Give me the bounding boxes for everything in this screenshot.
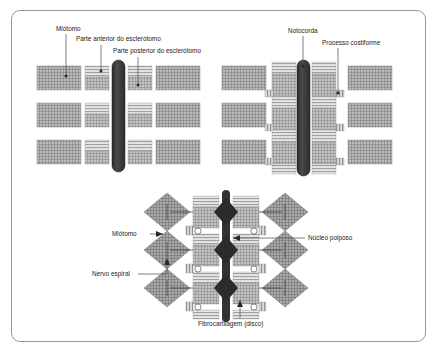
label-parte-posterior-esclerotomo: Parte posterior do esclerótomo xyxy=(113,47,201,55)
vertebral-bodies-right xyxy=(233,196,259,319)
sclerotome-blocks-left-inner xyxy=(85,66,109,164)
vertebra-column-left xyxy=(272,62,296,174)
vertebral-bodies-left xyxy=(193,196,219,319)
myotome-blocks-left-far xyxy=(156,66,200,164)
label-miotomo-bottom: Miótomo xyxy=(112,230,137,238)
figure-illustration xyxy=(0,0,437,355)
label-fibrocartilagem-disco: Fibrocartilagem (disco) xyxy=(198,320,263,328)
myotome-blocks-left xyxy=(37,66,81,164)
myotome-blocks-right-outer-left xyxy=(222,66,266,164)
label-nucleo-polposo: Núcleo polposo xyxy=(308,234,352,242)
notochord-left xyxy=(112,60,125,172)
panel-top-left xyxy=(37,60,200,172)
label-parte-anterior-esclerotomo: Parte anterior do esclerótomo xyxy=(76,35,161,43)
sclerotome-blocks-right-inner xyxy=(128,66,152,164)
myotome-blocks-right-outer-right xyxy=(348,66,392,164)
panel-top-right xyxy=(222,60,392,176)
notochord-right xyxy=(297,60,310,176)
label-notocorda: Notocorda xyxy=(288,27,318,35)
panel-bottom xyxy=(144,190,308,322)
figure-root: Miótomo Parte anterior do esclerótomo Pa… xyxy=(0,0,437,355)
label-processo-costiforme: Processo costiforme xyxy=(322,39,380,47)
costiform-processes-right xyxy=(336,90,344,165)
label-miotomo: Miótomo xyxy=(56,25,81,33)
label-nervo-espiral: Nervo espiral xyxy=(92,270,130,278)
vertebra-column-right xyxy=(312,62,336,174)
